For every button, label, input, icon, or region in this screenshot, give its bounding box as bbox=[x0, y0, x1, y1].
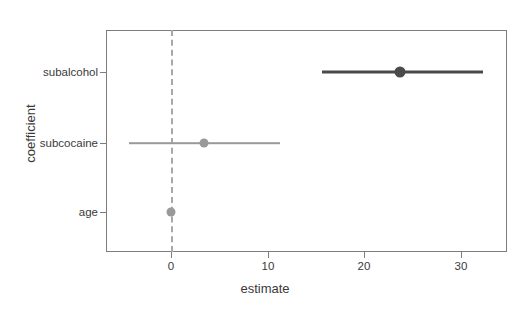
y-tick-label-age: age bbox=[10, 206, 98, 218]
estimate-point-subalcohol[interactable] bbox=[395, 67, 406, 78]
x-tick-label-10: 10 bbox=[262, 260, 275, 272]
x-tick-mark-0 bbox=[171, 252, 172, 258]
plot-panel bbox=[106, 30, 507, 252]
y-tick-label-subcocaine: subcocaine bbox=[10, 137, 98, 149]
x-tick-label-30: 30 bbox=[455, 260, 468, 272]
x-tick-label-20: 20 bbox=[358, 260, 371, 272]
x-tick-label-0: 0 bbox=[168, 260, 174, 272]
x-tick-mark-10 bbox=[268, 252, 269, 258]
zero-reference-line bbox=[171, 30, 173, 252]
y-axis-title: coefficient bbox=[23, 84, 38, 184]
coefficient-plot: coefficient estimate subalcohol subcocai… bbox=[0, 0, 530, 310]
x-axis-title: estimate bbox=[0, 281, 530, 296]
estimate-point-age[interactable] bbox=[167, 208, 176, 217]
x-tick-mark-20 bbox=[364, 252, 365, 258]
estimate-point-subcocaine[interactable] bbox=[199, 139, 208, 148]
y-tick-label-subalcohol: subalcohol bbox=[10, 66, 98, 78]
x-tick-mark-30 bbox=[461, 252, 462, 258]
